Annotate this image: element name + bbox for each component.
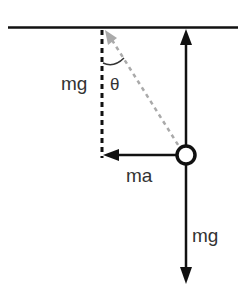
string-dashed-line [112, 40, 180, 148]
mg-arrowhead-icon [180, 267, 192, 284]
vertical-component-label: mg [61, 73, 87, 94]
ma-label: ma [126, 165, 153, 186]
ma-arrowhead-icon [103, 149, 119, 161]
mass-bob [177, 146, 195, 164]
free-body-diagram: mg θ ma mg [0, 0, 242, 294]
angle-label: θ [110, 75, 119, 94]
weight-label: mg [192, 225, 218, 246]
string-arrowhead-icon [105, 30, 117, 45]
tension-arrowhead-icon [180, 29, 192, 45]
angle-arc [103, 58, 124, 65]
